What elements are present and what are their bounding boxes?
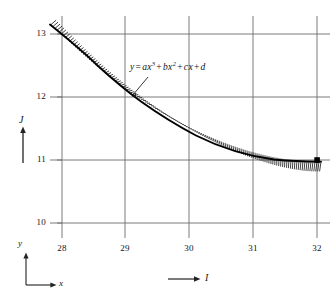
equation-term4: d (201, 62, 206, 72)
origin-key-axes (23, 253, 56, 288)
x-axis-title: I (205, 272, 208, 283)
figure-container: 13 12 11 10 28 29 30 31 32 J I y x y=ax3… (0, 0, 336, 300)
x-tick-label-29: 29 (115, 243, 135, 253)
y-axis-title: J (19, 114, 23, 125)
equation-annotation: y=ax3+bx2+cx+d (130, 62, 206, 72)
x-tick-label-31: 31 (243, 243, 263, 253)
annotation-leader-line (133, 77, 149, 96)
equation-plus-3: + (193, 62, 201, 72)
x-tick-label-28: 28 (52, 243, 72, 253)
y-axis-arrow (20, 127, 26, 164)
equation-plus-1: + (155, 62, 163, 72)
x-tick-label-32: 32 (307, 243, 327, 253)
x-tick-label-30: 30 (179, 243, 199, 253)
chart-canvas (0, 0, 336, 300)
y-tick-label-13: 13 (30, 28, 46, 38)
grid-lines (57, 16, 330, 238)
data-marker-32-11 (314, 157, 320, 163)
y-tick-label-12: 12 (30, 91, 46, 101)
x-axis-arrow (168, 276, 201, 281)
cubic-curve (50, 25, 321, 162)
equation-plus-2: + (176, 62, 184, 72)
origin-key-x-label: x (59, 278, 63, 288)
y-tick-label-11: 11 (30, 154, 46, 164)
y-tick-label-10: 10 (30, 217, 46, 227)
y-tick-marks (50, 34, 62, 223)
curve-hatching (51, 20, 321, 171)
equation-lhs: y (130, 62, 135, 72)
origin-key-y-label: y (18, 238, 22, 248)
